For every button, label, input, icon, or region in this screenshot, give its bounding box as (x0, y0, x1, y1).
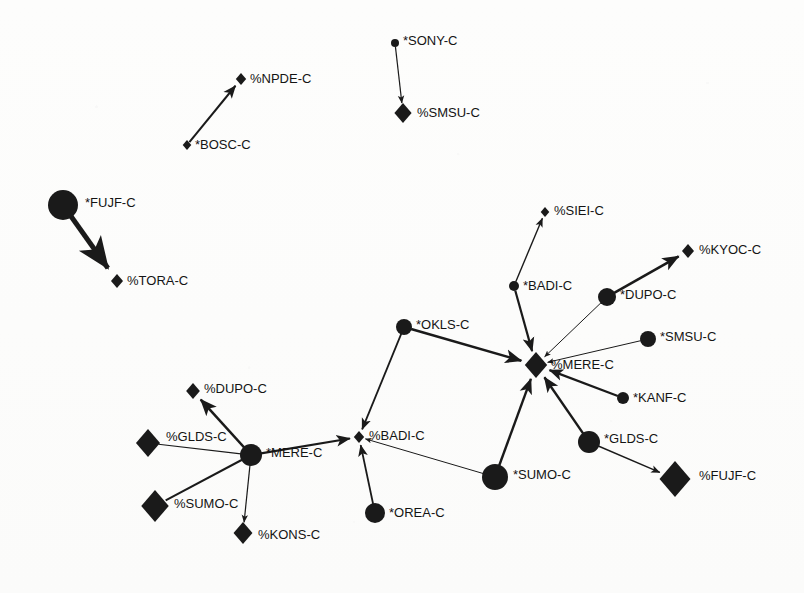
node-label: %DUPO-C (204, 381, 267, 396)
node-label: *BOSC-C (195, 137, 251, 152)
graph-edge (549, 370, 617, 396)
network-graph: *FUJF-C%TORA-C*BOSC-C%NPDE-C*SONY-C%SMSU… (0, 0, 804, 593)
node-label: %NPDE-C (250, 71, 311, 86)
graph-node[interactable] (365, 503, 385, 523)
graph-edge (499, 379, 531, 466)
node-label: *GLDS-C (604, 431, 658, 446)
label-layer: *FUJF-C%TORA-C*BOSC-C%NPDE-C*SONY-C%SMSU… (85, 33, 761, 542)
node-label: *KANF-C (633, 390, 686, 405)
node-label: %SIEI-C (554, 203, 604, 218)
graph-node[interactable] (240, 444, 262, 466)
graph-edge (361, 445, 373, 504)
graph-edge (244, 465, 250, 522)
graph-node[interactable] (136, 429, 160, 457)
graph-node[interactable] (682, 244, 694, 258)
graph-node[interactable] (391, 39, 399, 47)
graph-node[interactable] (111, 274, 123, 288)
graph-edge (395, 47, 401, 103)
node-label: *FUJF-C (85, 195, 136, 210)
node-label: *SMSU-C (660, 329, 716, 344)
graph-edge (544, 377, 583, 433)
graph-edge (71, 216, 108, 268)
graph-edge (545, 303, 601, 357)
node-label: *SUMO-C (513, 467, 571, 482)
node-label: *DUPO-C (620, 287, 676, 302)
node-label: %BADI-C (369, 428, 425, 443)
node-label: %TORA-C (127, 273, 188, 288)
diagram-canvas: *FUJF-C%TORA-C*BOSC-C%NPDE-C*SONY-C%SMSU… (0, 0, 804, 593)
graph-node[interactable] (186, 383, 200, 399)
graph-node[interactable] (236, 73, 246, 85)
node-label: %KYOC-C (699, 242, 761, 257)
graph-node[interactable] (617, 392, 629, 404)
graph-node[interactable] (509, 281, 519, 291)
graph-edge (516, 218, 543, 282)
graph-node[interactable] (482, 464, 508, 490)
node-label: %SUMO-C (174, 496, 238, 511)
node-label: *SONY-C (403, 33, 457, 48)
graph-node[interactable] (525, 352, 547, 378)
node-label: %GLDS-C (166, 429, 227, 444)
node-label: *MERE-C (266, 445, 322, 460)
graph-edge (158, 444, 240, 454)
graph-edge (166, 460, 242, 501)
graph-node[interactable] (394, 103, 411, 123)
graph-node[interactable] (640, 331, 656, 347)
graph-node[interactable] (578, 431, 600, 453)
node-label: *OREA-C (389, 505, 445, 520)
graph-node[interactable] (396, 319, 412, 335)
graph-edge (365, 439, 483, 474)
node-label: %FUJF-C (699, 468, 756, 483)
node-label: %SMSU-C (417, 105, 480, 120)
graph-node[interactable] (660, 461, 691, 497)
node-label: *OKLS-C (416, 317, 469, 332)
graph-edge (362, 334, 401, 430)
graph-node[interactable] (48, 190, 78, 220)
graph-node[interactable] (598, 288, 616, 306)
graph-edge (411, 329, 521, 361)
graph-node[interactable] (354, 431, 364, 443)
graph-node[interactable] (141, 490, 169, 522)
graph-node[interactable] (541, 207, 550, 217)
node-layer (48, 39, 694, 544)
node-label: *BADI-C (523, 278, 572, 293)
node-label: %KONS-C (258, 527, 320, 542)
graph-edge (189, 86, 235, 142)
node-label: %MERE-C (551, 357, 614, 372)
graph-node[interactable] (234, 522, 253, 544)
graph-edge (598, 446, 660, 472)
graph-edge (515, 290, 532, 351)
